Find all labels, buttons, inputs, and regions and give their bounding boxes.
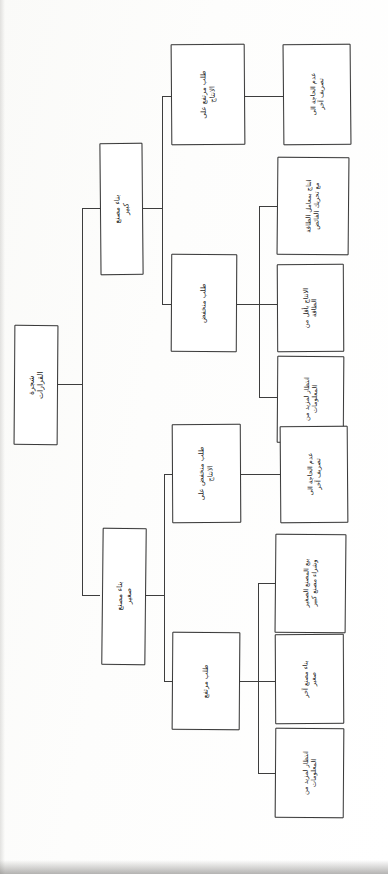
node-big-factory-label: بناء مصنع كبير [112,188,130,229]
node-leaf-1-label: عدم الحاجة الى تصريف آخر [309,73,325,116]
connector-leaf-4 [259,397,277,398]
node-leaf-wait-more-info-small[interactable]: انتظار لمزيد من المعلومات [275,728,345,818]
node-leaf-no-further-disposal-big[interactable]: عدم الحاجة الى تصريف آخر [283,44,352,146]
connector-trunk-small-factory [82,595,100,596]
node-leaf-no-further-disposal-small[interactable]: عدم الحاجة الى تصريف آخر [280,426,349,523]
connector-leaf-8 [258,773,275,774]
connector-big-high-demand [162,96,171,97]
node-leaf-below-capacity[interactable]: الانتاج بأقل من الطاقة [277,264,344,352]
connector-trunk-vertical [82,208,83,596]
connector-leaf-1 [245,96,283,97]
connector-big-low-demand [162,304,171,305]
node-small-high-demand[interactable]: طلب مرتفع [172,632,241,730]
node-small-high-demand-label: طلب مرتفع [202,664,211,698]
node-leaf-6-label: بيع المصنع الصغير وشراء مصنع كبير [302,559,318,608]
connector-root-trunk [58,384,83,385]
node-big-factory[interactable]: بناء مصنع كبير [99,143,143,275]
connector-leaf-3 [259,304,277,305]
connector-small-low-demand [164,474,172,475]
node-leaf-3-label: الانتاج بأقل من الطاقة [302,288,318,329]
connector-leaf-6 [258,583,275,584]
node-small-low-demand-label: طلب منخفض على الانتاج [198,446,215,500]
connector-trunk-big-factory [82,208,100,209]
node-small-factory[interactable]: بناء مصنع صغير [101,528,146,665]
connector-small-factory-spine-vertical [164,474,165,682]
node-big-low-demand[interactable]: طلب منخفض [171,254,238,352]
connector-leaf-5 [241,474,280,475]
connector-small-high-demand-spine [240,681,259,682]
node-leaf-8-label: انتظار لمزيد من المعلومات [301,751,317,795]
node-leaf-build-another-small[interactable]: بناء مصنع آخر صغير [275,634,344,724]
node-leaf-4-label: انتظار لمزيد من المعلومات [302,378,318,422]
node-root-label: شجرة القرارات [27,364,46,406]
connector-small-factory-spine [146,595,165,596]
node-big-high-demand[interactable]: طلب مرتفع على الانتاج [171,44,246,146]
connector-big-low-demand-spine-vertical [259,206,260,398]
connector-leaf-7 [258,681,275,682]
node-leaf-sell-small-buy-big[interactable]: بيع المصنع الصغير وشراء مصنع كبير [275,534,347,634]
node-big-high-demand-label: طلب مرتفع على الانتاج [199,70,216,118]
scan-edge-shadow-left [0,0,5,874]
node-small-low-demand[interactable]: طلب منخفض على الانتاج [172,424,242,523]
scan-edge-shadow-bottom [0,860,388,874]
node-leaf-full-capacity-surplus[interactable]: انتاج بمعامل الطاقة مع تحريك الفائض [277,157,350,256]
decision-tree-page: شجرة القرارات بناء مصنع كبير بناء مصنع ص… [0,0,388,874]
connector-big-factory-spine-vertical [162,96,163,305]
node-leaf-2-label: انتاج بمعامل الطاقة مع تحريك الفائض [305,179,322,233]
connector-small-high-demand-spine-vertical [258,583,259,774]
node-root[interactable]: شجرة القرارات [14,325,59,445]
node-small-factory-label: بناء مصنع صغير [115,575,134,617]
node-leaf-5-label: عدم الحاجة الى تصريف آخر [306,453,322,496]
connector-big-low-demand-spine [237,304,260,305]
node-big-low-demand-label: طلب منخفض [200,283,209,323]
connector-leaf-2 [259,206,277,207]
node-leaf-7-label: بناء مصنع آخر صغير [301,660,317,698]
connector-big-factory-spine [143,208,163,209]
connector-small-high-demand [164,681,172,682]
